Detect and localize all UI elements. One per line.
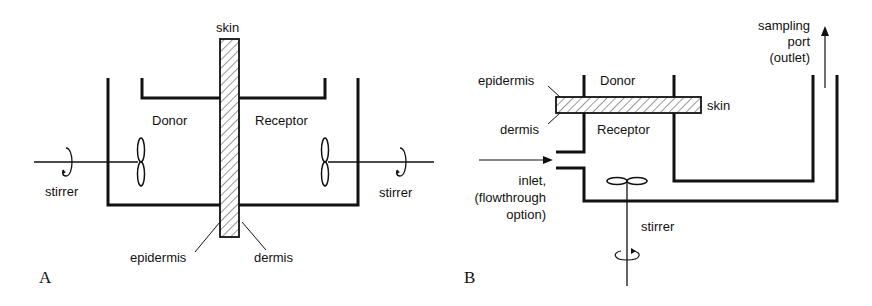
epidermis-leader bbox=[195, 222, 220, 252]
skin-membrane bbox=[220, 39, 239, 237]
inlet-line-2: (flowthrough bbox=[460, 189, 546, 206]
panel-a-skin-label: skin bbox=[216, 20, 239, 35]
panel-a-dermis-label: dermis bbox=[254, 250, 293, 265]
panel-b-skin-label: skin bbox=[707, 98, 730, 113]
dermis-leader bbox=[548, 113, 560, 124]
panel-a-stirrer-right-label: stirrer bbox=[379, 185, 412, 200]
skin-membrane bbox=[556, 97, 701, 113]
sampling-port-label: sampling port (outlet) bbox=[740, 18, 810, 66]
inlet-label: inlet, (flowthrough option) bbox=[460, 172, 546, 223]
panel-b-stirrer-label: stirrer bbox=[641, 219, 674, 234]
panel-a-letter: A bbox=[39, 268, 51, 288]
inlet-arrow-icon bbox=[543, 156, 553, 164]
outlet-arrow-icon bbox=[821, 26, 829, 36]
sampling-port-line-3: (outlet) bbox=[740, 50, 810, 66]
inlet-line-3: option) bbox=[460, 206, 546, 223]
panel-b-receptor-label: Receptor bbox=[597, 122, 650, 137]
bottom-stirrer-blade-right bbox=[627, 178, 647, 185]
left-stirrer-blade-top bbox=[138, 138, 145, 162]
panel-a-drawing bbox=[34, 39, 434, 252]
panel-a-receptor-label: Receptor bbox=[255, 113, 308, 128]
inlet-line-1: inlet, bbox=[460, 172, 546, 189]
left-stirrer-blade-bottom bbox=[138, 162, 145, 186]
receptor-upper-left-wall bbox=[556, 113, 584, 152]
panel-a-donor-label: Donor bbox=[152, 113, 187, 128]
donor-top-bracket bbox=[142, 78, 220, 98]
bottom-stirrer-blade-left bbox=[607, 178, 627, 185]
panel-b-epidermis-label: epidermis bbox=[478, 73, 534, 88]
panel-b-dermis-label: dermis bbox=[500, 122, 539, 137]
receptor-top-bracket bbox=[239, 78, 325, 98]
right-stirrer-blade-bottom bbox=[322, 162, 329, 186]
sampling-port-line-2: port bbox=[740, 34, 810, 50]
epidermis-leader bbox=[548, 86, 560, 97]
dermis-leader bbox=[242, 222, 266, 250]
panel-b-donor-label: Donor bbox=[600, 73, 635, 88]
panel-a-stirrer-left-label: stirrer bbox=[45, 184, 78, 199]
right-stirrer-blade-top bbox=[322, 138, 329, 162]
receptor-inner-wall bbox=[674, 75, 813, 181]
sampling-port-line-1: sampling bbox=[740, 18, 810, 34]
panel-a-epidermis-label: epidermis bbox=[130, 250, 186, 265]
panel-b-letter: B bbox=[464, 268, 475, 288]
diffusion-cell-figure: skin Donor Receptor stirrer stirrer epid… bbox=[0, 0, 872, 306]
